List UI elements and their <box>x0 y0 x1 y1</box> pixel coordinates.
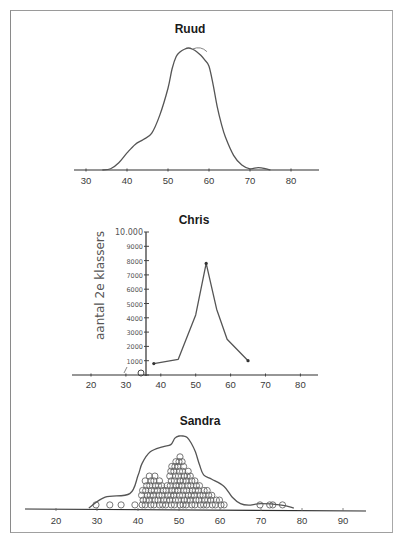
y-tick-label: 9000 <box>126 243 143 251</box>
data-point <box>152 362 155 365</box>
data-circle <box>132 502 138 508</box>
x-tick-label: 30 <box>81 175 92 186</box>
x-tick-label: 40 <box>122 175 133 186</box>
y-tick-label: 2000 <box>126 343 143 351</box>
y-axis-label-chris: aantal 2e klassers <box>93 231 107 340</box>
x-tick-label: 40 <box>133 515 144 526</box>
x-tick-label: 70 <box>260 379 271 390</box>
chart-title-ruud: Ruud <box>175 22 206 36</box>
x-tick-label: 50 <box>163 175 174 186</box>
y-tick-label: 5000 <box>126 301 143 309</box>
x-tick-label: 60 <box>215 515 226 526</box>
y-tick-label: 1000 <box>126 358 143 366</box>
x-tick-label: 60 <box>225 379 236 390</box>
density-curve-ruud <box>102 48 270 170</box>
x-tick-label: 20 <box>51 515 62 526</box>
x-tick-label: 70 <box>245 175 256 186</box>
y-ticks-chris: 10002000300040005000600070008000900010.0… <box>115 228 149 376</box>
line-chris <box>154 263 248 363</box>
y-tick-label: 8000 <box>126 258 143 266</box>
data-point <box>246 359 249 362</box>
y-tick-label: 4000 <box>126 315 143 323</box>
chart-title-chris: Chris <box>179 213 210 227</box>
x-tick-label: 80 <box>295 379 306 390</box>
series-ruud <box>102 48 270 170</box>
x-axis-sandra <box>25 509 366 511</box>
y-tick-label: 7000 <box>126 272 143 280</box>
x-tick-label: 70 <box>256 515 267 526</box>
x-tick-label: 90 <box>338 515 349 526</box>
x-tick-label: 40 <box>156 379 167 390</box>
x-tick-label: 20 <box>86 379 97 390</box>
data-point <box>205 262 208 265</box>
x-tick-label: 30 <box>121 379 132 390</box>
x-tick-label: 50 <box>190 379 201 390</box>
x-tick-label: 50 <box>174 515 185 526</box>
x-tick-label: 30 <box>92 515 103 526</box>
chart-title-sandra: Sandra <box>180 414 221 428</box>
x-ticks-chris: 20304050607080 <box>86 374 306 391</box>
series-sandra-circles <box>93 454 286 508</box>
charts-canvas: Ruud 304050607080 Chris 20304050607080 1… <box>0 0 402 549</box>
x-tick-label: 80 <box>297 515 308 526</box>
y-tick-label: 6000 <box>126 286 143 294</box>
chart-chris: Chris 20304050607080 1000200030004000500… <box>72 213 318 390</box>
data-circle <box>118 502 124 508</box>
x-ticks-ruud: 304050607080 <box>81 169 297 187</box>
y-tick-label: 10.000 <box>115 228 143 237</box>
data-circle <box>107 502 113 508</box>
y-tick-label: 3000 <box>126 329 143 337</box>
chart-ruud: Ruud 304050607080 <box>74 22 319 186</box>
x-tick-label: 80 <box>286 175 297 186</box>
x-tick-label: 60 <box>204 175 215 186</box>
pencil-mark <box>124 367 127 373</box>
data-circle <box>257 502 263 508</box>
chart-sandra: Sandra 2030405060708090 <box>25 414 366 526</box>
y-label-line-1: aantal 2e klassers <box>93 231 107 340</box>
